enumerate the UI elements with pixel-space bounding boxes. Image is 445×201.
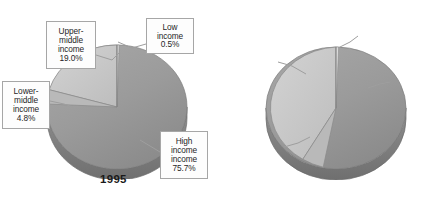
chart-panel-2018: Upper- middle income, 31.8% Low income, … <box>222 0 444 201</box>
pie-2018-svg <box>260 38 412 180</box>
pie-2018 <box>260 38 412 180</box>
callout-1995-lower-middle-income: Lower- middle income 4.8% <box>2 81 50 129</box>
callout-1995-high-income: High income income 75.7% <box>160 131 208 179</box>
chart-title-1995: 1995 <box>100 173 127 185</box>
callout-1995-low-income: Low income 0.5% <box>146 18 194 54</box>
chart-panel-1995: Upper- middle income 19.0% Low income 0.… <box>0 0 222 201</box>
callout-1995-upper-middle-income: Upper- middle income 19.0% <box>46 21 96 69</box>
pie-chart-figure: Upper- middle income 19.0% Low income 0.… <box>0 0 445 201</box>
